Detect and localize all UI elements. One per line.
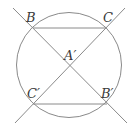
label-A-prime: A′ bbox=[63, 48, 76, 63]
label-B-prime: B′ bbox=[100, 86, 114, 101]
label-C-prime: C′ bbox=[27, 86, 40, 101]
geometry-diagram: B C A′ C′ B′ bbox=[0, 0, 134, 129]
line-CC1 bbox=[15, 8, 125, 123]
label-C: C bbox=[103, 10, 113, 25]
diagram-canvas: B C A′ C′ B′ bbox=[0, 0, 134, 129]
label-B: B bbox=[25, 10, 36, 25]
